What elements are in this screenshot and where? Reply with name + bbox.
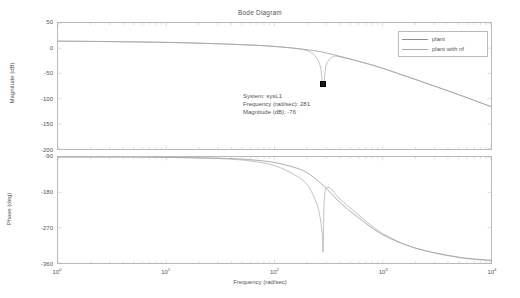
x-axis-tick-label-2: 102 (270, 267, 279, 275)
chart-title: Bode Diagram (0, 9, 520, 16)
pha-ticks-label-1: -180 (41, 189, 53, 195)
data-tip-marker[interactable] (320, 81, 326, 87)
mag-ticks-label-3: -100 (41, 96, 53, 102)
legend-line-swatch (402, 49, 428, 50)
mag-ticks-label-0: 50 (46, 19, 53, 25)
phase-plot-canvas (58, 157, 491, 263)
x-axis-tick-label-0: 100 (52, 267, 61, 275)
legend-label: plant (432, 36, 445, 42)
series-plant (58, 157, 491, 260)
mag-ticks-label-1: 0 (50, 45, 53, 51)
legend-label: plant with nf (432, 46, 464, 52)
legend-item-0[interactable]: plant (402, 34, 484, 44)
x-axis-tick-label-1: 101 (161, 267, 170, 275)
x-axis-tick-label-4: 104 (487, 267, 496, 275)
pha-ticks-label-2: -270 (41, 225, 53, 231)
data-tip-system: System: sysL1 (243, 92, 347, 100)
data-tip-magnitude: Magnitude (dB): -76 (243, 108, 347, 116)
legend[interactable]: plantplant with nf (398, 31, 488, 57)
phase-plot-panel (57, 156, 492, 264)
x-axis-tick-label-3: 103 (379, 267, 388, 275)
legend-line-swatch (402, 39, 428, 40)
mag-ticks-label-4: -150 (41, 121, 53, 127)
x-axis-label: Frequency (rad/sec) (0, 279, 520, 285)
data-tip-frequency: Frequency (rad/sec): 281 (243, 100, 347, 108)
bode-figure: Bode Diagram 500-50-100-150-200 Magnitud… (0, 0, 520, 298)
data-tip-annotation: System: sysL1 Frequency (rad/sec): 281 M… (243, 92, 347, 117)
legend-item-1[interactable]: plant with nf (402, 44, 484, 54)
pha-ticks-label-0: -90 (44, 153, 53, 159)
magnitude-y-axis-label: Magnitude (dB) (9, 48, 15, 118)
series-plant-with-nf (58, 157, 491, 261)
mag-ticks-label-2: -50 (44, 70, 53, 76)
x-axis-ticks: 100101102103104 (0, 267, 520, 279)
phase-y-axis-label: Phase (deg) (6, 179, 12, 239)
